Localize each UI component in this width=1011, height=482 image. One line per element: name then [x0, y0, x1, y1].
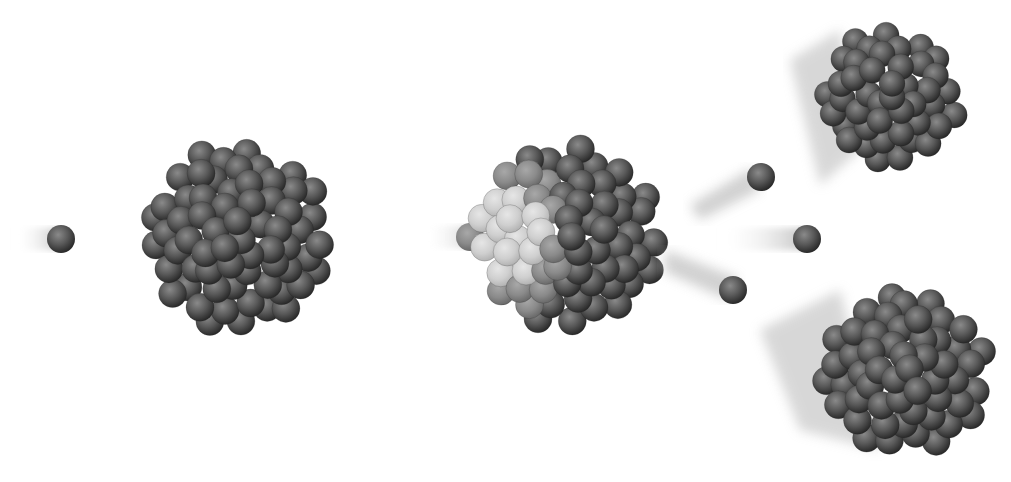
target-nucleus: [141, 139, 333, 335]
released-neutron-1: [690, 163, 775, 220]
incoming-neutron: [15, 225, 75, 253]
released-neutron-2: [720, 225, 821, 253]
neutron-sphere: [47, 225, 75, 253]
released-neutrons: [665, 163, 821, 304]
fission-diagram: [0, 0, 1011, 482]
splitting-nucleus: [468, 135, 668, 335]
released-neutron-3: [665, 250, 747, 304]
